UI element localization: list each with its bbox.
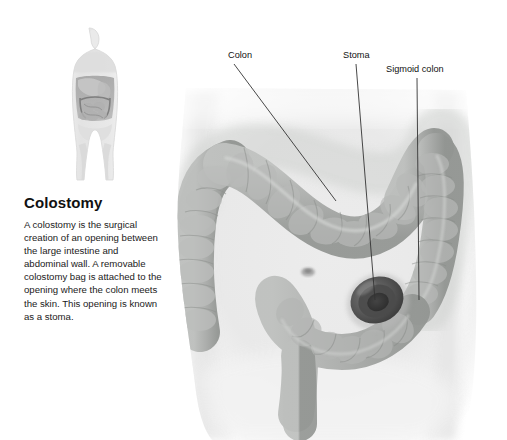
callout-label-sigmoid-colon: Sigmoid colon — [386, 64, 444, 75]
caption-heading: Colostomy — [24, 195, 164, 211]
caption-body-text: A colostomy is the surgical creation of … — [24, 218, 164, 323]
colostomy-illustration: Colon Stoma Sigmoid colon Colostomy A co… — [0, 0, 507, 440]
caption-block: Colostomy A colostomy is the surgical cr… — [24, 195, 164, 323]
callout-label-stoma: Stoma — [343, 50, 370, 61]
callout-label-colon: Colon — [228, 50, 252, 61]
